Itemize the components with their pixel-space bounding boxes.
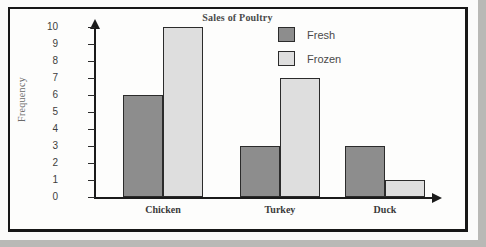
- legend-item-frozen[interactable]: Frozen: [278, 51, 341, 66]
- bar-duck-frozen[interactable]: [385, 180, 425, 197]
- y-axis-label: Frequency: [16, 65, 27, 135]
- category-label-turkey: Turkey: [222, 204, 338, 215]
- legend-swatch-frozen: [278, 51, 295, 66]
- y-tick-9: [88, 44, 95, 45]
- y-tick-label-2: 2: [32, 158, 58, 168]
- y-tick-label-0: 0: [32, 192, 58, 202]
- bar-duck-fresh[interactable]: [345, 146, 385, 197]
- y-tick-label-4: 4: [32, 124, 58, 134]
- y-tick-6: [88, 95, 95, 96]
- bar-turkey-frozen[interactable]: [280, 78, 320, 197]
- legend-label-frozen: Frozen: [307, 53, 341, 65]
- bar-group-duck: [345, 27, 425, 197]
- y-tick-label-9: 9: [32, 39, 58, 49]
- bar-turkey-fresh[interactable]: [240, 146, 280, 197]
- scanned-page: Sales of Poultry Frequency 012345678910 …: [0, 0, 486, 247]
- y-tick-4: [88, 129, 95, 130]
- y-tick-8: [88, 61, 95, 62]
- bar-chicken-fresh[interactable]: [123, 95, 163, 197]
- y-tick-5: [88, 112, 95, 113]
- category-label-chicken: Chicken: [105, 204, 221, 215]
- chart-legend: FreshFrozen: [278, 27, 341, 75]
- y-tick-7: [88, 78, 95, 79]
- y-tick-label-1: 1: [32, 175, 58, 185]
- bar-group-chicken: [123, 27, 203, 197]
- y-tick-label-8: 8: [32, 56, 58, 66]
- y-tick-3: [88, 146, 95, 147]
- legend-item-fresh[interactable]: Fresh: [278, 27, 341, 42]
- y-tick-0: [88, 197, 95, 198]
- y-tick-label-7: 7: [32, 73, 58, 83]
- y-tick-2: [88, 163, 95, 164]
- y-tick-label-6: 6: [32, 90, 58, 100]
- legend-swatch-fresh: [278, 27, 295, 42]
- chart-area: Sales of Poultry Frequency 012345678910 …: [10, 9, 465, 229]
- legend-label-fresh: Fresh: [307, 29, 335, 41]
- y-tick-10: [88, 27, 95, 28]
- y-tick-1: [88, 180, 95, 181]
- bar-chicken-frozen[interactable]: [163, 27, 203, 197]
- chart-frame: Sales of Poultry Frequency 012345678910 …: [8, 7, 468, 232]
- y-tick-label-5: 5: [32, 107, 58, 117]
- y-tick-label-10: 10: [32, 22, 58, 32]
- x-axis-line: [94, 197, 434, 199]
- bar-series-container: [95, 27, 435, 197]
- y-tick-label-3: 3: [32, 141, 58, 151]
- category-label-duck: Duck: [327, 204, 443, 215]
- chart-title: Sales of Poultry: [10, 12, 465, 23]
